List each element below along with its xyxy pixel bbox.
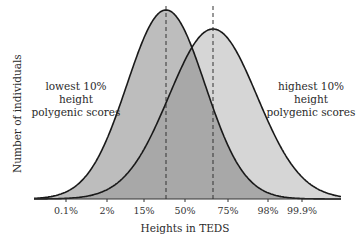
x-tick-label: 50% [174, 205, 195, 216]
y-axis-label: Number of individuals [11, 63, 23, 173]
x-tick-label: 99.9% [287, 205, 317, 216]
low-pgs-annotation-line2: polygenic scores [28, 106, 124, 119]
x-axis-label: Heights in TEDS [130, 222, 240, 234]
x-tick-label: 15% [133, 205, 154, 216]
low-pgs-annotation-line1: lowest 10% height [28, 80, 124, 106]
distribution-chart [0, 0, 361, 239]
x-tick-label: 75% [217, 205, 238, 216]
x-tick-label: 2% [99, 205, 114, 216]
low-pgs-annotation: lowest 10% height polygenic scores [28, 80, 124, 119]
high-pgs-annotation-line2: polygenic scores [261, 106, 361, 119]
high-pgs-annotation-line1: highest 10% height [261, 80, 361, 106]
high-pgs-annotation: highest 10% height polygenic scores [261, 80, 361, 119]
x-tick-label: 98% [257, 205, 278, 216]
x-tick-label: 0.1% [54, 205, 78, 216]
